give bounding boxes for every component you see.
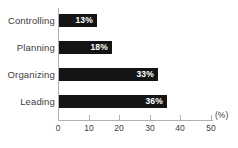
category-label-planning: Planning [0, 41, 55, 54]
category-label-controlling: Controlling [0, 14, 55, 27]
category-label-organizing: Organizing [0, 68, 55, 81]
bar-planning: 18% [58, 41, 112, 54]
x-tick-label-50: 50 [199, 123, 223, 134]
x-tick-label-20: 20 [107, 123, 131, 134]
x-tick-mark-10 [89, 115, 90, 121]
bar-leading: 36% [58, 95, 167, 108]
bar-value-leading: 36% [145, 95, 163, 108]
x-tick-label-0: 0 [46, 123, 70, 134]
x-axis-unit-label: (%) [215, 110, 228, 121]
x-tick-label-30: 30 [138, 123, 162, 134]
bar-organizing: 33% [58, 68, 158, 81]
x-tick-mark-30 [150, 115, 151, 121]
x-tick-mark-50 [211, 115, 212, 121]
bar-chart: Controlling Planning Organizing Leading … [0, 0, 238, 148]
bar-value-organizing: 33% [136, 68, 154, 81]
bar-controlling: 13% [58, 14, 97, 27]
category-label-leading: Leading [0, 95, 55, 108]
x-tick-mark-40 [180, 115, 181, 121]
x-axis-line [58, 120, 213, 121]
bar-value-planning: 18% [90, 41, 108, 54]
bar-value-controlling: 13% [75, 14, 93, 27]
x-tick-label-10: 10 [77, 123, 101, 134]
x-tick-mark-0 [58, 115, 59, 121]
x-tick-mark-20 [119, 115, 120, 121]
x-tick-label-40: 40 [168, 123, 192, 134]
y-axis-line [58, 8, 59, 121]
